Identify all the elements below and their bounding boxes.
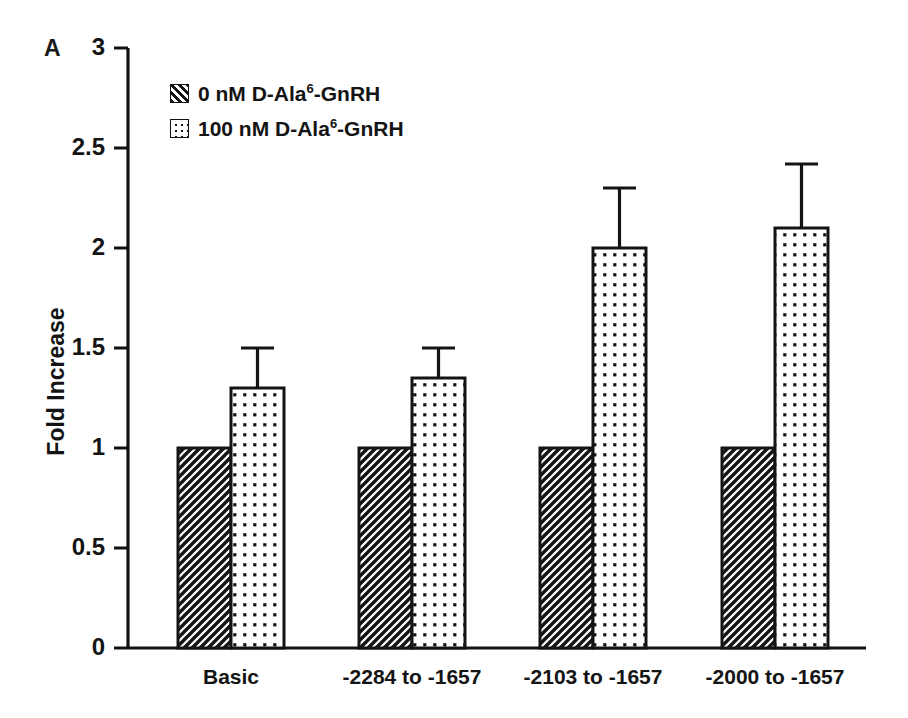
y-axis-ticks (114, 48, 128, 648)
error-bar-series1-cat1 (422, 348, 455, 378)
bar-group-0 (178, 348, 284, 648)
y-tick-label-2: 2 (55, 233, 105, 261)
bar-series1-cat0 (231, 388, 284, 648)
bar-group-2 (540, 188, 646, 648)
figure-panel-a: A 3 2.5 2 1.5 1 0.5 0 Fold Increase Basi… (0, 0, 908, 718)
error-bar-series1-cat3 (785, 164, 818, 228)
legend-label-1-tail: -GnRH (337, 117, 404, 140)
y-axis-title: Fold Increase (43, 282, 70, 482)
legend-item-1: 100 nM D-Ala6-GnRH (170, 113, 404, 144)
y-tick-label-2-5: 2.5 (45, 133, 105, 161)
legend-label-1: 100 nM D-Ala6-GnRH (198, 118, 404, 139)
bar-series1-cat1 (412, 378, 465, 648)
x-category-label-0: Basic (151, 665, 311, 689)
bar-series0-cat2 (540, 448, 593, 648)
legend-item-0: 0 nM D-Ala6-GnRH (170, 78, 404, 109)
legend-label-0-tail: -GnRH (314, 82, 381, 105)
bar-series1-cat3 (775, 228, 828, 648)
legend-label-0: 0 nM D-Ala6-GnRH (198, 83, 380, 104)
legend: 0 nM D-Ala6-GnRH 100 nM D-Ala6-GnRH (170, 78, 404, 148)
bar-group-1 (359, 348, 465, 648)
bar-series1-cat2 (593, 248, 646, 648)
legend-label-1-main: 100 nM D-Ala (198, 117, 330, 140)
error-bar-series1-cat2 (603, 188, 636, 248)
legend-swatch-hatch-icon (170, 84, 189, 103)
y-tick-label-0: 0 (55, 633, 105, 661)
bar-group-3 (722, 164, 828, 648)
x-category-label-2: -2103 to -1657 (503, 665, 683, 689)
error-bar-series1-cat0 (241, 348, 274, 388)
legend-swatch-dot-icon (170, 119, 189, 138)
x-category-label-1: -2284 to -1657 (322, 665, 502, 689)
y-tick-label-0-5: 0.5 (45, 533, 105, 561)
legend-label-0-main: 0 nM D-Ala (198, 82, 307, 105)
bar-series0-cat3 (722, 448, 775, 648)
bar-series0-cat0 (178, 448, 231, 648)
x-category-label-3: -2000 to -1657 (685, 665, 865, 689)
y-tick-label-3: 3 (55, 33, 105, 61)
bar-series0-cat1 (359, 448, 412, 648)
bar-chart-plot (0, 0, 908, 718)
legend-label-0-sup: 6 (307, 81, 314, 96)
